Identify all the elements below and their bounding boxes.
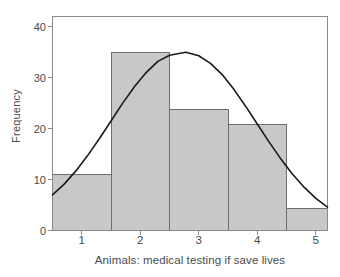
x-tick-label: 1 (72, 234, 92, 246)
y-tick-label: 20 (20, 123, 46, 135)
x-axis-title: Animals: medical testing if save lives (52, 254, 328, 266)
x-axis-tick-labels: 12345 (0, 234, 340, 254)
y-axis-title: Frequency (10, 46, 22, 186)
histogram-bar (170, 110, 229, 231)
y-tick-label: 40 (20, 21, 46, 33)
x-tick-label: 2 (130, 234, 150, 246)
histogram-bar (228, 124, 287, 230)
x-tick-label: 4 (247, 234, 267, 246)
histogram-bar (287, 208, 328, 230)
y-tick-label: 30 (20, 72, 46, 84)
histogram-bar (53, 174, 112, 230)
x-tick-label: 3 (189, 234, 209, 246)
y-tick-label: 10 (20, 174, 46, 186)
x-tick-label: 5 (306, 234, 326, 246)
histogram-figure: 010203040 12345 Frequency Animals: medic… (0, 0, 340, 277)
